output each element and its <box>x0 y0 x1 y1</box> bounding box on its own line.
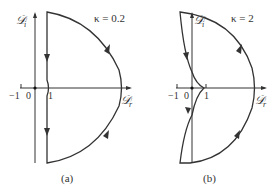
tick-one: 1 <box>48 90 53 101</box>
direction-arrow-icon <box>183 52 189 60</box>
tick-minus-one: −1 <box>168 90 179 101</box>
panel-b: 𝒟 i 𝒟 r κ = 2 −1 0 1 (b) <box>168 12 267 185</box>
kappa-label: κ = 2 <box>231 12 254 24</box>
tick-zero: 0 <box>26 90 31 101</box>
svg-text:i: i <box>202 20 204 29</box>
direction-arrow-icon <box>234 130 240 139</box>
origin-dot <box>190 86 193 89</box>
axis-arrow-icon <box>261 86 267 90</box>
tick-one: 1 <box>204 90 209 101</box>
panel-a: 𝒟 i 𝒟 r κ = 0.2 −1 0 1 (a) <box>9 12 133 185</box>
tick-minus-one: −1 <box>9 90 20 101</box>
caption-b: (b) <box>203 172 216 185</box>
direction-arrow-icon <box>236 44 242 54</box>
axis-arrow-icon <box>33 12 37 18</box>
direction-arrow-icon <box>44 54 50 62</box>
svg-text:r: r <box>129 100 133 109</box>
direction-arrow-icon <box>185 107 191 114</box>
axis-arrow-icon <box>126 86 132 90</box>
direction-arrow-icon <box>44 128 50 136</box>
svg-text:i: i <box>24 20 26 29</box>
origin-dot <box>33 86 36 89</box>
kappa-label: κ = 0.2 <box>94 12 125 24</box>
caption-a: (a) <box>61 172 74 185</box>
nyquist-diagram: 𝒟 i 𝒟 r κ = 0.2 −1 0 1 (a) 𝒟 i 𝒟 r κ = 2… <box>0 0 278 194</box>
svg-text:r: r <box>263 100 267 109</box>
tick-zero: 0 <box>184 90 189 101</box>
